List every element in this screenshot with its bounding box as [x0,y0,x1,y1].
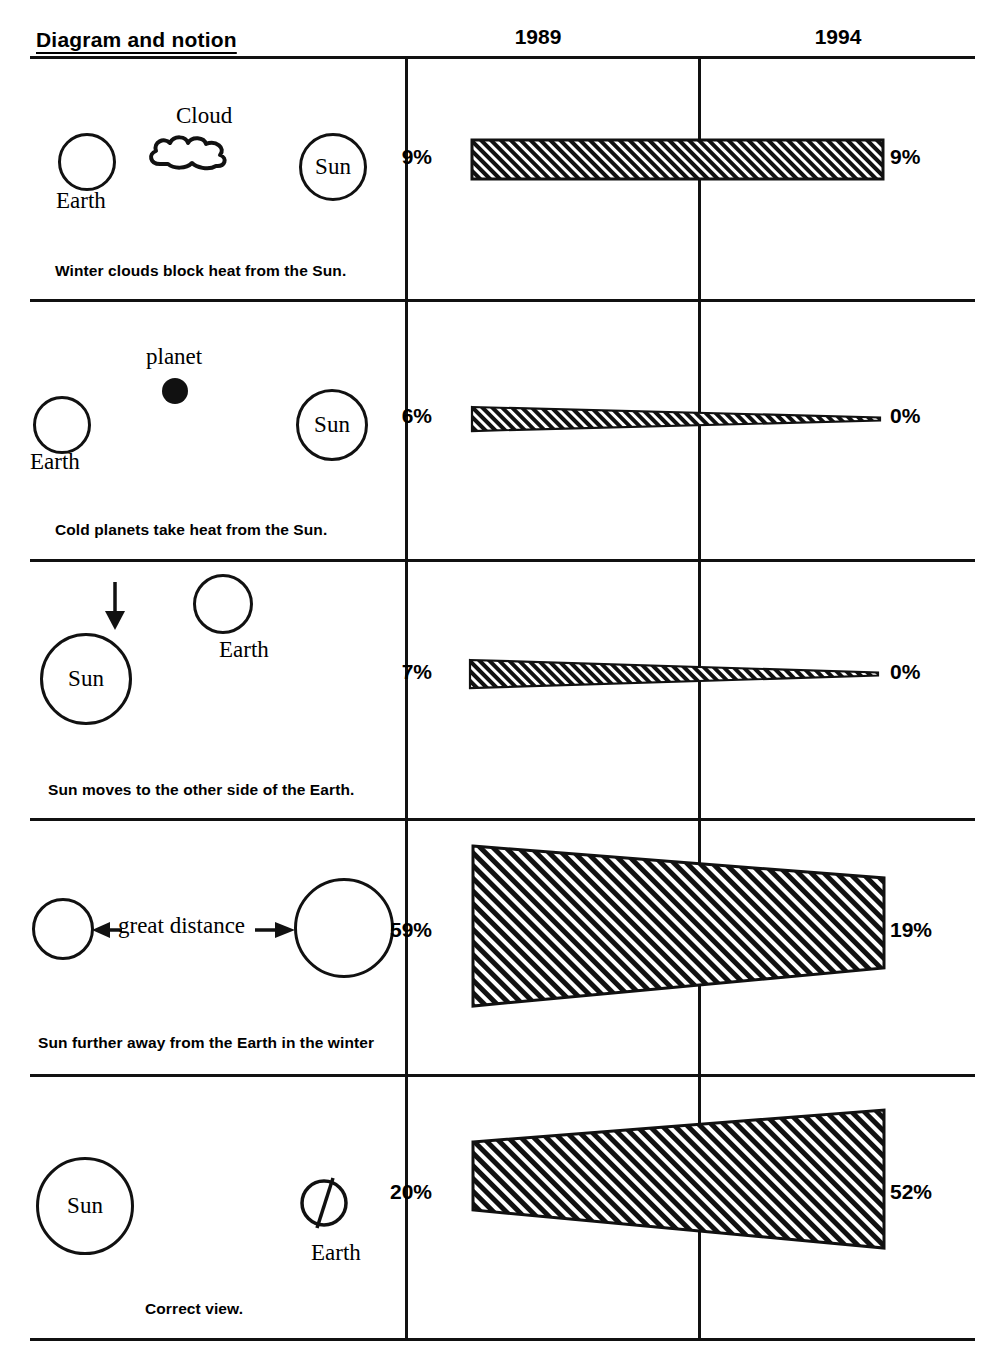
row-separator-1 [30,299,975,302]
chart-sheet: Diagram and notion 1989 1994 Earth Cloud… [0,0,989,1365]
value-1989: 9% [356,145,432,169]
row-caption: Sun moves to the other side of the Earth… [48,781,354,799]
earth-circle [32,898,94,960]
value-1994: 0% [890,660,970,684]
earth-label: Earth [219,637,269,663]
planet-dot-icon [162,378,188,404]
table-bottom-rule [30,1338,975,1341]
earth-label: Earth [56,188,106,214]
value-1989: 20% [350,1180,432,1204]
earth-label: Earth [311,1240,361,1266]
column-header-1989: 1989 [478,25,598,49]
row-caption: Correct view. [145,1300,243,1318]
row-separator-2 [30,559,975,562]
row-separator-3 [30,818,975,821]
sun-label: Sun [314,412,350,438]
row-caption: Sun further away from the Earth in the w… [38,1034,374,1052]
cloud-icon [146,134,230,172]
sun-label: Sun [315,154,351,180]
row-caption: Cold planets take heat from the Sun. [55,521,327,539]
value-1994: 52% [890,1180,980,1204]
sun-circle: Sun [36,1157,134,1255]
row-separator-4 [30,1074,975,1077]
sun-label: Sun [67,1193,103,1219]
header-rule [30,56,975,59]
earth-circle [193,574,253,634]
cloud-label: Cloud [176,103,232,129]
planet-label: planet [146,344,202,370]
trend-band [470,132,885,188]
value-1994: 19% [890,918,980,942]
value-1989: 59% [350,918,432,942]
column-header-1994: 1994 [778,25,898,49]
earth-circle [58,133,116,191]
earth-label: Earth [30,449,80,475]
column-divider-1989 [405,56,408,1341]
value-1989: 6% [356,404,432,428]
sun-label: Sun [68,666,104,692]
trend-band [470,828,890,1038]
page-title: Diagram and notion [36,28,237,52]
down-arrow-icon [100,580,130,632]
sun-circle: Sun [40,633,132,725]
distance-arrow-right-icon [253,915,303,945]
trend-band [468,652,883,696]
row-caption: Winter clouds block heat from the Sun. [55,262,346,280]
value-1994: 9% [890,145,970,169]
earth-circle [33,396,91,454]
trend-band [470,398,885,440]
value-1989: 7% [356,660,432,684]
value-1994: 0% [890,404,970,428]
distance-label: great distance [118,913,245,939]
trend-band [470,1090,890,1295]
